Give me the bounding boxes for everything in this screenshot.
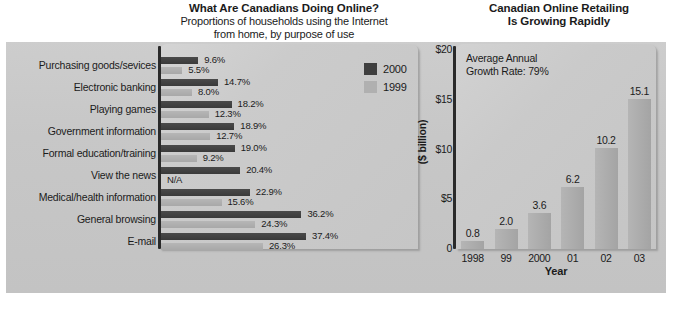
category-label: Medical/health information <box>39 191 156 203</box>
bar-value-label-1999: 24.3% <box>261 218 287 229</box>
left-chart-subtitle-line2: from home, by purpose of use <box>150 28 418 41</box>
y-axis-tick-label: $15 <box>435 93 452 105</box>
right-x-axis-title: Year <box>456 265 656 277</box>
bar-value-label-2000: 22.9% <box>256 186 282 197</box>
right-bar-chart: ($ billion) $20$15$10$50 Average Annual … <box>406 44 674 288</box>
bar-value-label: 3.6 <box>519 199 559 211</box>
bar-value-label-2000: 14.7% <box>224 76 250 87</box>
bar-value-label-1999: 12.3% <box>215 108 241 119</box>
right-chart-title-block: Canadian Online Retailing Is Growing Rap… <box>452 2 666 28</box>
left-bar-chart: 2000 1999 Purchasing goods/sevices9.6%5.… <box>6 44 422 254</box>
y-axis-tick-label: 0 <box>446 242 452 254</box>
bar-value-label: 15.1 <box>619 85 659 97</box>
category-label: Formal education/training <box>43 147 156 159</box>
bar-1999 <box>161 133 210 140</box>
bar-value-label-1999: 26.3% <box>269 240 295 251</box>
category-label: View the news <box>91 169 156 181</box>
right-y-axis-title: ($ billion) <box>416 102 428 182</box>
growth-rate-annotation: Average Annual Growth Rate: 79% <box>466 52 549 78</box>
category-label: E-mail <box>127 235 156 247</box>
left-chart-title: What Are Canadians Doing Online? <box>150 2 418 15</box>
bar-year-03 <box>628 99 651 249</box>
bar-group-row: Medical/health information22.9%15.6% <box>6 188 422 210</box>
bar-1999 <box>161 67 182 74</box>
bar-1999 <box>161 221 255 228</box>
bar-value-label-2000: 36.2% <box>307 208 333 219</box>
bar-value-label-1999: 15.6% <box>228 196 254 207</box>
bar-value-label-1999: 12.7% <box>216 130 242 141</box>
x-axis-tick-label: 03 <box>619 252 659 264</box>
bar-group-row: View the news20.4%N/A <box>6 166 422 188</box>
bar-value-label-2000: 18.9% <box>240 120 266 131</box>
bar-value-label-1999: 9.2% <box>203 152 224 163</box>
bar-1999 <box>161 155 197 162</box>
bar-1999 <box>161 243 263 250</box>
bar-year-1998 <box>461 241 484 249</box>
right-chart-title-line2: Is Growing Rapidly <box>452 15 666 28</box>
bar-2000 <box>161 57 198 64</box>
category-label: Electronic banking <box>74 81 156 93</box>
bar-year-02 <box>595 148 618 249</box>
bar-group-row: Purchasing goods/sevices9.6%5.5% <box>6 56 422 78</box>
bar-2000 <box>161 167 240 174</box>
bar-2000 <box>161 145 235 152</box>
annotation-line-2: Growth Rate: 79% <box>466 65 549 78</box>
bar-2000 <box>161 233 306 240</box>
category-label: Purchasing goods/sevices <box>39 59 156 71</box>
bar-group-row: General browsing36.2%24.3% <box>6 210 422 232</box>
bar-value-label-1999: 8.0% <box>198 86 219 97</box>
left-chart-title-block: What Are Canadians Doing Online? Proport… <box>150 2 418 40</box>
bar-2000 <box>161 79 218 86</box>
bar-group-row: Formal education/training19.0%9.2% <box>6 144 422 166</box>
left-chart-subtitle-line1: Proportions of households using the Inte… <box>150 15 418 28</box>
bar-value-label-1999: 5.5% <box>188 64 209 75</box>
bar-value-label: 2.0 <box>486 215 526 227</box>
bar-value-label: 10.2 <box>586 134 626 146</box>
bar-value-label: 6.2 <box>553 173 593 185</box>
bar-1999 <box>161 199 222 206</box>
y-axis-tick-label: $20 <box>435 43 452 55</box>
bar-value-label-2000: 18.2% <box>238 98 264 109</box>
y-axis-tick-label: $10 <box>435 143 452 155</box>
bar-2000 <box>161 189 250 196</box>
bar-2000 <box>161 101 232 108</box>
bar-2000 <box>161 123 234 130</box>
bar-value-label-1999-na: N/A <box>167 174 182 185</box>
bar-1999 <box>161 89 192 96</box>
category-label: Playing games <box>90 103 156 115</box>
bar-1999 <box>161 111 209 118</box>
right-chart-title-line1: Canadian Online Retailing <box>452 2 666 15</box>
annotation-line-1: Average Annual <box>466 52 549 65</box>
bar-group-row: Electronic banking14.7%8.0% <box>6 78 422 100</box>
bar-2000 <box>161 211 301 218</box>
bar-year-01 <box>561 187 584 249</box>
bar-year-2000 <box>528 213 551 249</box>
bar-year-99 <box>495 229 518 249</box>
bar-group-row: E-mail37.4%26.3% <box>6 232 422 254</box>
bar-value-label-2000: 20.4% <box>246 164 272 175</box>
bar-value-label-2000: 37.4% <box>312 230 338 241</box>
bar-value-label-2000: 19.0% <box>241 142 267 153</box>
category-label: General browsing <box>77 213 156 225</box>
bar-group-row: Playing games18.2%12.3% <box>6 100 422 122</box>
y-axis-tick-label: $5 <box>441 192 452 204</box>
bar-value-label: 0.8 <box>453 227 493 239</box>
right-value-axis <box>453 46 456 249</box>
category-label: Government information <box>48 125 156 137</box>
bar-group-row: Government information18.9%12.7% <box>6 122 422 144</box>
